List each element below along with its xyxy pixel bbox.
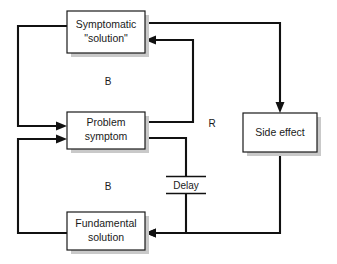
arrow-head	[56, 122, 67, 131]
arrow-head	[276, 102, 285, 113]
node-label-line1: Fundamental	[75, 217, 136, 229]
node-symptomatic-solution[interactable]: Symptomatic "solution"	[67, 11, 149, 57]
edge-line	[145, 23, 280, 102]
node-label-line1: Problem	[86, 116, 125, 128]
edge-side-effect-to-fundamental	[145, 152, 280, 238]
edge-problem-to-symptomatic	[145, 36, 193, 123]
loop-label-b-lower: B	[105, 181, 112, 192]
node-side-effect[interactable]: Side effect	[243, 113, 321, 156]
node-label-line2: symptom	[85, 130, 128, 142]
edge-line	[18, 139, 67, 233]
node-fundamental-solution[interactable]: Fundamental solution	[67, 212, 149, 254]
node-label-line2: solution	[88, 231, 124, 243]
systems-archetype-diagram: Delay B B R Symptomatic "solution" Probl…	[0, 0, 337, 264]
node-label-line2: "solution"	[84, 32, 128, 44]
edge-symptomatic-to-problem	[18, 26, 67, 131]
edge-line	[18, 26, 67, 126]
node-problem-symptom[interactable]: Problem symptom	[67, 112, 149, 153]
loop-label-r: R	[208, 118, 215, 129]
loop-label-b-upper: B	[105, 76, 112, 87]
diagram-canvas: Delay B B R Symptomatic "solution" Probl…	[0, 0, 337, 264]
edge-fundamental-to-problem	[18, 135, 67, 234]
arrow-head	[56, 135, 67, 144]
node-label-line1: Side effect	[255, 126, 305, 138]
delay-marker: Delay	[166, 176, 206, 194]
delay-label: Delay	[173, 180, 199, 191]
node-label-line1: Symptomatic	[76, 18, 137, 30]
edge-symptomatic-to-side-effect	[145, 23, 285, 113]
edge-line	[145, 40, 193, 122]
